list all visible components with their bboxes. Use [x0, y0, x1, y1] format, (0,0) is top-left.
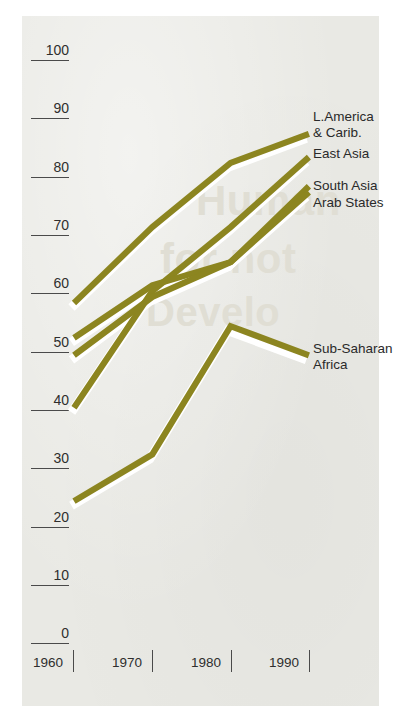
series-label-lamerica-carib: L.America & Carib. [313, 109, 374, 140]
series-label-east-asia: East Asia [313, 146, 369, 162]
series-label-arab-states: Arab States [313, 195, 384, 211]
series-label-south-asia: South Asia [313, 178, 378, 194]
series-label-subsaharan-africa: Sub-Saharan Africa [313, 341, 393, 372]
plot-area: 100 90 80 70 60 50 40 30 20 10 0 1960 19… [0, 0, 401, 728]
series-strokes [74, 134, 309, 501]
series-label-subsaharan-line2: Africa [313, 357, 393, 373]
series-label-lamerica-line2: & Carib. [313, 125, 374, 141]
chart-figure: Human for not Develo 100 90 80 70 60 50 … [0, 0, 401, 728]
series-label-lamerica-line1: L.America [313, 109, 374, 125]
series-label-subsaharan-line1: Sub-Saharan [313, 341, 393, 357]
